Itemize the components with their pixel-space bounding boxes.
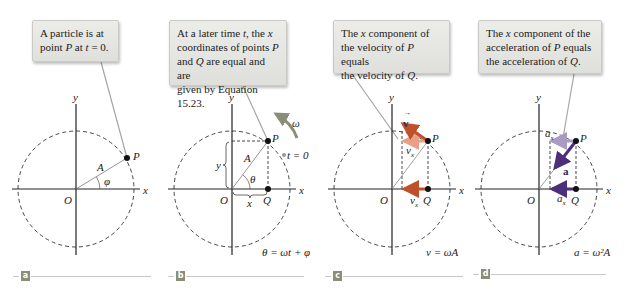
callout-text: component of the bbox=[511, 27, 591, 39]
panel-divider bbox=[491, 274, 606, 275]
callout-text: . bbox=[578, 55, 581, 67]
origin-label: O bbox=[527, 195, 535, 206]
callout-text: Q bbox=[570, 55, 578, 67]
callout-text: The bbox=[486, 27, 506, 39]
ax-subscript: x bbox=[551, 134, 554, 142]
callout-text: the acceleration of bbox=[486, 55, 570, 67]
callout-text: equals bbox=[561, 41, 592, 53]
callout-text: P bbox=[554, 41, 561, 53]
callout-text: acceleration of bbox=[486, 41, 554, 53]
y-axis-label: y bbox=[536, 92, 541, 103]
equation-acceleration: a = ω²A bbox=[574, 247, 610, 258]
panel-tag-d: d bbox=[481, 269, 490, 279]
point-p-label: P bbox=[580, 133, 587, 144]
point-q-label: Q bbox=[571, 195, 579, 206]
accel-vector-label: a bbox=[563, 165, 569, 177]
ax-bottom-label: ax bbox=[557, 193, 566, 207]
panel-d: The x component of the acceleration of P… bbox=[0, 0, 633, 295]
x-axis-label: x bbox=[606, 185, 611, 196]
callout-d: The x component of the acceleration of P… bbox=[478, 20, 602, 74]
ax-top-label: ax bbox=[545, 128, 554, 142]
ax-subscript: x bbox=[563, 199, 566, 207]
